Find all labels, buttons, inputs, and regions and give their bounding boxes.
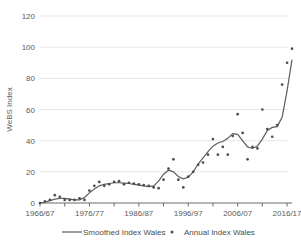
data-point [231, 135, 234, 138]
y-tick-label-100: 100 [22, 43, 36, 52]
data-point [167, 167, 170, 170]
data-point [261, 108, 264, 111]
data-point [197, 163, 200, 166]
data-point [83, 199, 86, 202]
data-point [118, 180, 121, 183]
data-point [207, 153, 210, 156]
data-point [133, 182, 136, 185]
data-point [202, 161, 205, 164]
data-point [276, 124, 279, 127]
data-point [291, 47, 294, 50]
data-point [137, 183, 140, 186]
series-points-annual-index-wales [39, 47, 294, 204]
data-point [271, 135, 274, 138]
y-tick-label-80: 80 [26, 74, 35, 83]
webs-index-chart: 0204060801001201966/671976/771986/871996… [0, 0, 301, 243]
data-point [192, 170, 195, 173]
y-tick-label-40: 40 [26, 137, 35, 146]
legend-label-smoothed: Smoothed Index Wales [83, 228, 165, 237]
x-tick-label-2006: 2006/07 [223, 209, 252, 218]
data-point [182, 186, 185, 189]
data-point [78, 197, 81, 200]
legend-label-annual: Annual Index Wales [184, 228, 255, 237]
data-point [53, 194, 56, 197]
data-point [128, 181, 131, 184]
data-point [241, 132, 244, 135]
data-point [39, 202, 42, 205]
data-point [93, 185, 96, 188]
data-point [172, 158, 175, 161]
data-point [162, 178, 165, 181]
data-point [147, 185, 150, 188]
data-point [123, 183, 126, 186]
y-tick-label-120: 120 [22, 12, 36, 21]
data-point [187, 175, 190, 178]
data-point [49, 199, 52, 202]
data-point [266, 128, 269, 131]
data-point [157, 187, 160, 190]
data-point [152, 186, 155, 189]
data-point [286, 61, 289, 64]
x-tick-label-1996: 1996/97 [174, 209, 203, 218]
data-point [236, 113, 239, 116]
data-point [246, 158, 249, 161]
data-point [108, 183, 111, 186]
x-tick-label-2016: 2016/17 [273, 209, 301, 218]
y-tick-label-60: 60 [26, 106, 35, 115]
data-point [212, 138, 215, 141]
y-tick-label-0: 0 [31, 199, 36, 208]
data-point [281, 83, 284, 86]
data-point [88, 189, 91, 192]
data-point [68, 199, 71, 202]
data-point [221, 146, 224, 149]
data-point [142, 184, 145, 187]
data-point [251, 146, 254, 149]
y-axis-title: WeBS Index [5, 87, 14, 131]
y-tick-label-20: 20 [26, 168, 35, 177]
x-tick-label-1986: 1986/87 [124, 209, 153, 218]
data-point [113, 181, 116, 184]
series-line-smoothed-index-wales [40, 60, 292, 203]
data-point [63, 199, 66, 202]
data-point [177, 178, 180, 181]
data-point [44, 200, 47, 203]
chart-svg: 0204060801001201966/671976/771986/871996… [0, 0, 301, 243]
data-point [226, 153, 229, 156]
data-point [103, 185, 106, 188]
data-point [217, 153, 220, 156]
x-tick-label-1976: 1976/77 [75, 209, 104, 218]
data-point [58, 195, 61, 198]
x-tick-label-1966: 1966/67 [26, 209, 55, 218]
legend-marker-dot [171, 231, 174, 234]
data-point [256, 147, 259, 150]
data-point [98, 181, 101, 184]
data-point [73, 199, 76, 202]
